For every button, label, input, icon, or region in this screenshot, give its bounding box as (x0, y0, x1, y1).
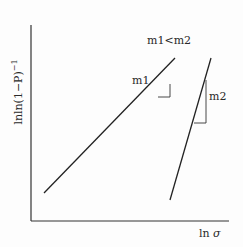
m1-label: m1 (132, 74, 149, 87)
plot-svg: m1<m2 m1 m2 ln σ lnln(1−P)−1 (0, 0, 243, 247)
y-axis-label: lnln(1−P)−1 (10, 59, 25, 124)
comparison-label: m1<m2 (147, 34, 191, 47)
slope-triangle-m1 (158, 84, 170, 97)
slope-triangle-m2 (194, 80, 206, 123)
line-m1 (44, 58, 175, 193)
x-axis-label: ln σ (199, 227, 221, 240)
x-axis-label-ln: ln (199, 227, 213, 240)
m2-label: m2 (209, 90, 226, 103)
x-axis-label-sigma: σ (213, 227, 221, 240)
y-axis-label-exponent: −1 (10, 59, 19, 71)
y-axis-label-main: lnln(1−P) (12, 71, 25, 124)
weibull-plot-figure: m1<m2 m1 m2 ln σ lnln(1−P)−1 (0, 0, 243, 247)
line-m2 (170, 58, 211, 200)
